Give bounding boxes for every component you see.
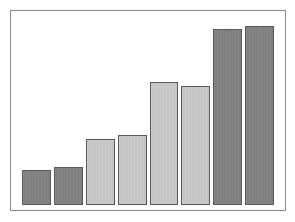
bar-6 (181, 86, 210, 205)
plot-frame (10, 10, 286, 211)
bars-area (11, 11, 285, 210)
bar-7 (213, 29, 242, 205)
bar-8 (245, 26, 274, 205)
bar-3 (86, 139, 115, 205)
bar-chart-figure (0, 0, 295, 222)
bar-5 (150, 82, 179, 205)
bar-2 (54, 167, 83, 205)
bar-1 (22, 170, 51, 205)
bar-4 (118, 135, 147, 205)
